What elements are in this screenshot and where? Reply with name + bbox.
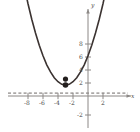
plot-canvas	[0, 0, 140, 132]
y-tick-label-6: 6	[79, 54, 83, 60]
data-point-upper	[63, 77, 68, 82]
y-axis-arrow-icon	[86, 9, 90, 14]
x-axis-label: x	[131, 93, 134, 99]
y-tick-label-8: 8	[79, 41, 83, 47]
x-tick-label-neg4: -4	[54, 100, 60, 106]
y-tick-label-neg2: -2	[77, 112, 83, 118]
y-axis-label: y	[91, 2, 94, 8]
parabola-graph-figure: -8 -6 -4 -2 2 2 4 6 8 -2 y x	[0, 0, 140, 132]
y-tick-label-4: 4	[79, 67, 83, 73]
data-point-vertex	[63, 82, 69, 88]
x-tick-label-neg6: -6	[39, 100, 45, 106]
parabola-curve	[24, 0, 108, 85]
x-tick-label-neg2: -2	[69, 100, 75, 106]
y-tick-label-2: 2	[79, 80, 83, 86]
x-tick-label-pos2: 2	[101, 100, 105, 106]
x-tick-label-neg8: -8	[24, 100, 30, 106]
